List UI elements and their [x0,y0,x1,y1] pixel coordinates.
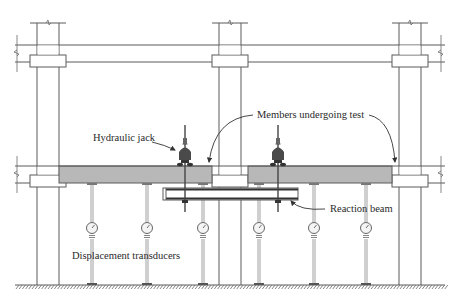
ground-hatch-mark [160,285,163,289]
ground-hatch-mark [256,285,259,289]
jack-top [276,138,280,144]
transducer-base [87,283,97,285]
ground-hatch-mark [86,285,89,289]
column-joint [400,46,421,55]
ground-hatch-mark [438,285,441,289]
ground-hatch-mark [173,285,176,289]
break-symbol-upper-left [14,35,19,72]
ground-hatch-mark [374,285,377,289]
ground-hatch-mark [339,285,342,289]
ground-hatch-mark [282,285,285,289]
transducer-top-plate [361,183,371,185]
column-joint [38,167,59,175]
label-displacement-transducers: Displacement transducers [72,250,180,261]
ground-hatch-mark [208,285,211,289]
ground-hatch-mark [67,285,70,289]
ground-hatch-mark [304,285,307,289]
ground-hatch-mark [42,285,45,289]
ground-hatch-mark [29,285,32,289]
ground-hatch-mark [413,285,416,289]
ground-hatch-mark [330,285,333,289]
transducer-top-plate [309,183,319,185]
ground-hatch-mark [99,285,102,289]
ground-hatch-mark [442,285,445,289]
ground-hatch-mark [198,285,201,289]
transducer-base [142,283,152,285]
label-hydraulic-jack: Hydraulic jack [93,132,175,150]
ground-hatch-mark [394,285,397,289]
hydraulic-jack-label: Hydraulic jack [93,132,156,143]
hydraulic-jack-arrow [152,142,175,150]
ground-hatch-mark [138,285,141,289]
ground-hatch-mark [163,285,166,289]
ground-hatch-mark [397,285,400,289]
ground-hatch-mark [131,285,134,289]
ground-hatch-mark [109,285,112,289]
ground-hatch-mark [278,285,281,289]
ground-hatch-mark [170,285,173,289]
ground-hatch-mark [115,285,118,289]
ground-hatch-mark [80,285,83,289]
ground-hatch-mark [38,285,41,289]
ground-hatch-mark [16,285,19,289]
ground-hatch-mark [19,285,22,289]
ground-hatch-mark [240,285,243,289]
ground-hatch-mark [342,285,345,289]
jack-neck [181,160,189,163]
ground-hatch-mark [118,285,121,289]
ground-hatch-mark [211,285,214,289]
ground-hatch-mark [307,285,310,289]
break-symbol-upper-right [438,35,443,72]
ground-hatch-mark [371,285,374,289]
ground-hatch-mark [35,285,38,289]
ground-hatch-mark [150,285,153,289]
displacement-transducer-5 [309,183,320,285]
ground-hatch-mark [362,285,365,289]
ground-hatch-mark [288,285,291,289]
column-joint [220,167,241,175]
jack-nut [280,163,286,167]
ground-hatch-mark [182,285,185,289]
transducer-top-plate [87,183,97,185]
ground-hatch-mark [333,285,336,289]
ground-hatch-mark [400,285,403,289]
ground-hatch-mark [61,285,64,289]
ground-hatch-mark [106,285,109,289]
ground-hatch-mark [253,285,256,289]
ground-hatch-mark [237,285,240,289]
ground-hatch-mark [234,285,237,289]
ground-hatch-mark [410,285,413,289]
column-capital-lower [392,175,428,187]
ground-hatch-mark [301,285,304,289]
column-3 [392,20,428,285]
ground-hatch-mark [51,285,54,289]
displacement-transducer-6 [361,183,372,285]
ground-hatch-mark [192,285,195,289]
transducer-base [198,283,208,285]
ground-hatch-mark [250,285,253,289]
ground-hatch-mark [426,285,429,289]
ground-hatch-mark [317,285,320,289]
members-arrow-right [369,115,395,162]
ground-hatch-mark [310,285,313,289]
displacement-transducer-2 [142,183,153,285]
jack-body [179,148,191,161]
ground-hatch-mark [422,285,425,289]
ground-hatch-mark [45,285,48,289]
ground-hatch-mark [269,285,272,289]
ground-hatch-mark [189,285,192,289]
ground-hatch-mark [176,285,179,289]
column-capital-upper [30,55,66,67]
ground-hatch-mark [429,285,432,289]
ground-hatch-mark [314,285,317,289]
ground-hatch-mark [112,285,115,289]
ground-hatch-mark [202,285,205,289]
ground-hatch-mark [298,285,301,289]
ground-hatch-mark [54,285,57,289]
ground-hatch-mark [77,285,80,289]
ground-hatch-mark [320,285,323,289]
ground-hatch-mark [285,285,288,289]
label-reaction-beam: Reaction beam [291,201,393,214]
ground-hatch-mark [368,285,371,289]
ground-hatch-mark [416,285,419,289]
